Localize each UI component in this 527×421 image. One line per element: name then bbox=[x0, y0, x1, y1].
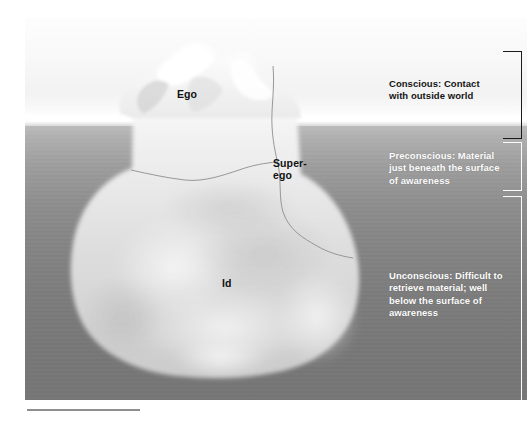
illustration-plate: Ego Super- ego Id Conscious: Contact wit… bbox=[25, 18, 527, 400]
iceberg-graphic bbox=[25, 18, 527, 400]
label-id: Id bbox=[222, 277, 232, 289]
annotation-unconscious: Unconscious: Difficult to retrieve mater… bbox=[389, 270, 509, 320]
annotation-preconscious: Preconscious: Material just beneath the … bbox=[389, 150, 509, 187]
caption-rule bbox=[27, 409, 140, 411]
label-ego: Ego bbox=[177, 88, 197, 100]
bracket-conscious bbox=[503, 51, 522, 139]
iceberg-figure: Ego Super- ego Id Conscious: Contact wit… bbox=[0, 0, 527, 421]
bracket-unconscious bbox=[503, 196, 522, 400]
annotation-conscious: Conscious: Contact with outside world bbox=[389, 78, 504, 103]
label-superego: Super- ego bbox=[273, 157, 307, 181]
bracket-preconscious bbox=[503, 142, 522, 191]
iceberg-svg bbox=[25, 18, 527, 400]
